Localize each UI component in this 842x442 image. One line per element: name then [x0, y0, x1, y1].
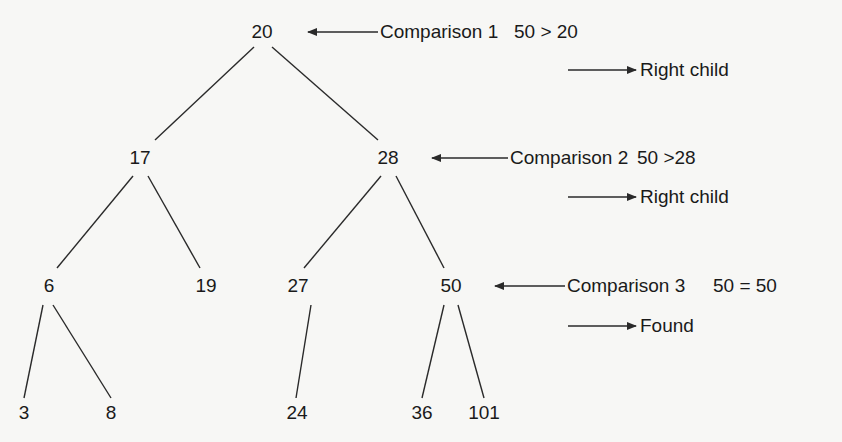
edge-50-36 — [422, 305, 444, 398]
tree-node: 27 — [287, 275, 308, 297]
comparison-1-expression: 50 > 20 — [514, 21, 578, 43]
tree-node: 19 — [195, 275, 216, 297]
comparison-1-result: Right child — [640, 59, 729, 81]
comparison-2-expression: 50 >28 — [637, 147, 696, 169]
edge-17-6 — [57, 176, 133, 268]
comparison-2-result: Right child — [640, 186, 729, 208]
tree-node: 8 — [106, 402, 117, 424]
tree-node: 24 — [286, 402, 307, 424]
edge-28-50 — [396, 176, 444, 268]
tree-node: 6 — [44, 275, 55, 297]
tree-node-found: 50 — [440, 275, 461, 297]
edge-17-19 — [148, 176, 200, 268]
comparison-3-expression: 50 = 50 — [713, 275, 777, 297]
comparison-2-label: Comparison 2 — [510, 147, 628, 169]
edge-20-28 — [272, 47, 378, 140]
edge-28-27 — [304, 176, 381, 268]
comparison-3-result: Found — [640, 315, 694, 337]
comparison-3-label: Comparison 3 — [567, 275, 685, 297]
edge-6-3 — [24, 305, 43, 398]
edge-27-24 — [296, 305, 311, 398]
tree-node: 17 — [129, 147, 150, 169]
edge-50-101 — [458, 305, 484, 398]
bst-search-diagram: 20 17 28 6 19 27 50 3 8 24 36 101 Compar… — [0, 0, 842, 442]
tree-node: 101 — [468, 402, 500, 424]
tree-node-root: 20 — [251, 21, 272, 43]
comparison-1-label: Comparison 1 — [380, 21, 498, 43]
tree-node: 3 — [19, 402, 30, 424]
tree-node: 28 — [377, 147, 398, 169]
edge-20-17 — [155, 47, 254, 140]
edge-6-8 — [53, 305, 111, 398]
tree-node: 36 — [411, 402, 432, 424]
